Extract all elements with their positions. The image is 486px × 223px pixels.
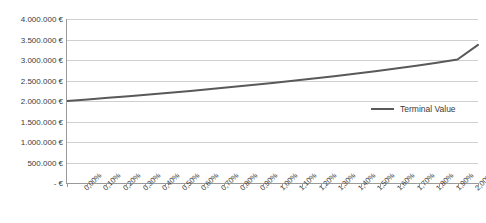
x-axis-tick-mark <box>282 184 283 187</box>
x-axis-tick-mark <box>263 184 264 187</box>
x-axis-tick-mark <box>458 184 459 187</box>
x-axis-tick-mark <box>224 184 225 187</box>
x-axis-tick-mark <box>380 184 381 187</box>
y-axis-tick-label: 500.000 € <box>3 158 63 167</box>
x-axis-tick-mark <box>126 184 127 187</box>
x-axis-labels: 0,00%0,10%0,20%0,30%0,40%0,50%0,60%0,70%… <box>67 184 478 223</box>
x-axis-tick-mark <box>419 184 420 187</box>
y-axis-tick-label: 1.000.000 € <box>3 138 63 147</box>
x-axis-tick-mark <box>67 184 68 187</box>
legend-line-swatch <box>371 108 394 110</box>
legend-entry-label: Terminal Value <box>400 104 456 114</box>
y-axis-tick-label: 3.000.000 € <box>3 56 63 65</box>
x-axis-tick-mark <box>87 184 88 187</box>
y-axis-tick-label: 2.500.000 € <box>3 76 63 85</box>
x-axis-tick-mark <box>106 184 107 187</box>
x-axis-tick-mark <box>400 184 401 187</box>
series-line <box>67 45 478 101</box>
series-layer <box>67 19 478 183</box>
x-axis-tick-mark <box>341 184 342 187</box>
x-axis-tick-mark <box>184 184 185 187</box>
y-axis-tick-label: 4.000.000 € <box>3 15 63 24</box>
plot-area <box>67 19 478 183</box>
x-axis-tick-mark <box>243 184 244 187</box>
x-axis-tick-mark <box>204 184 205 187</box>
chart-legend: Terminal Value <box>371 104 456 114</box>
y-axis-tick-label: 1.500.000 € <box>3 117 63 126</box>
x-axis-tick-mark <box>439 184 440 187</box>
x-axis-tick-mark <box>321 184 322 187</box>
x-axis-tick-mark <box>361 184 362 187</box>
x-axis-tick-mark <box>478 184 479 187</box>
value-axis-line <box>66 19 67 184</box>
x-axis-tick-mark <box>302 184 303 187</box>
y-axis-tick-label: - € <box>3 179 63 188</box>
y-axis-tick-label: 3.500.000 € <box>3 35 63 44</box>
y-axis-tick-label: 2.000.000 € <box>3 97 63 106</box>
y-axis-labels: 4.000.000 €3.500.000 €3.000.000 €2.500.0… <box>0 19 63 183</box>
x-axis-tick-mark <box>145 184 146 187</box>
line-chart: 4.000.000 €3.500.000 €3.000.000 €2.500.0… <box>0 0 486 223</box>
x-axis-tick-mark <box>165 184 166 187</box>
